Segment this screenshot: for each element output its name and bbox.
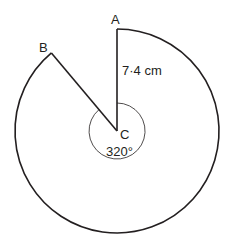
angle-label: 320° — [106, 144, 133, 159]
radius-length-label: 7·4 cm — [122, 63, 162, 78]
point-label-c: C — [120, 127, 129, 142]
point-label-b: B — [39, 40, 48, 55]
sector-diagram: A B C 7·4 cm 320° — [0, 0, 232, 252]
point-label-a: A — [111, 12, 120, 27]
radius-cb — [51, 53, 117, 131]
